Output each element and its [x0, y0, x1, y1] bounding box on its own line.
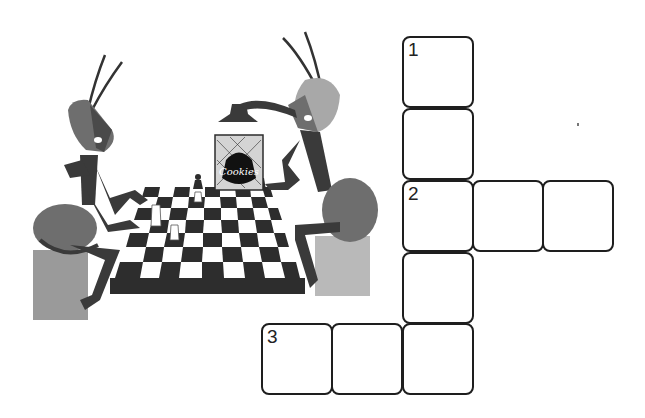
- crossword-cell-1-down-4[interactable]: [402, 252, 474, 324]
- cell-input[interactable]: [410, 264, 466, 316]
- crossword-cell-2-across-3[interactable]: [542, 180, 614, 252]
- cell-input[interactable]: [550, 192, 606, 244]
- cell-input[interactable]: [410, 335, 466, 387]
- right-stool: [315, 236, 370, 296]
- crossword-cell-1-down-5-3-across-3[interactable]: [402, 323, 474, 395]
- cookie-jar: Cookies: [215, 104, 263, 190]
- crossword-cell-1-down-2[interactable]: [402, 108, 474, 180]
- scan-speck: [577, 123, 579, 126]
- crossword-cell-2-across-2[interactable]: [472, 180, 544, 252]
- jar-label: Cookies: [219, 166, 259, 177]
- crossword-cell-3-across-2[interactable]: [331, 323, 403, 395]
- cell-input[interactable]: [410, 120, 466, 172]
- crossword-cell-3-across-1[interactable]: 3: [261, 323, 333, 395]
- crossword-cell-1-down-1[interactable]: 1: [402, 36, 474, 108]
- cell-input[interactable]: [339, 335, 395, 387]
- cell-input[interactable]: [480, 192, 536, 244]
- cell-input[interactable]: [269, 335, 325, 387]
- cell-input[interactable]: [410, 192, 466, 244]
- crossword-cell-1-down-3-2-across-1[interactable]: 2: [402, 180, 474, 252]
- cell-input[interactable]: [410, 48, 466, 100]
- left-stool: [33, 250, 88, 320]
- ants-chess-illustration: Cookies: [0, 0, 390, 330]
